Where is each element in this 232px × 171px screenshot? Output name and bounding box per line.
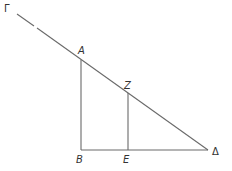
label-b: B (76, 154, 83, 165)
line-gamma-delta-part2 (37, 28, 208, 150)
label-e: E (123, 154, 130, 165)
label-a: A (77, 45, 85, 56)
geometry-diagram: Γ A Z B E Δ (0, 0, 232, 171)
label-gamma: Γ (4, 3, 10, 14)
label-delta: Δ (212, 146, 219, 157)
line-gamma-delta-part1 (17, 14, 34, 26)
label-z: Z (123, 80, 132, 91)
